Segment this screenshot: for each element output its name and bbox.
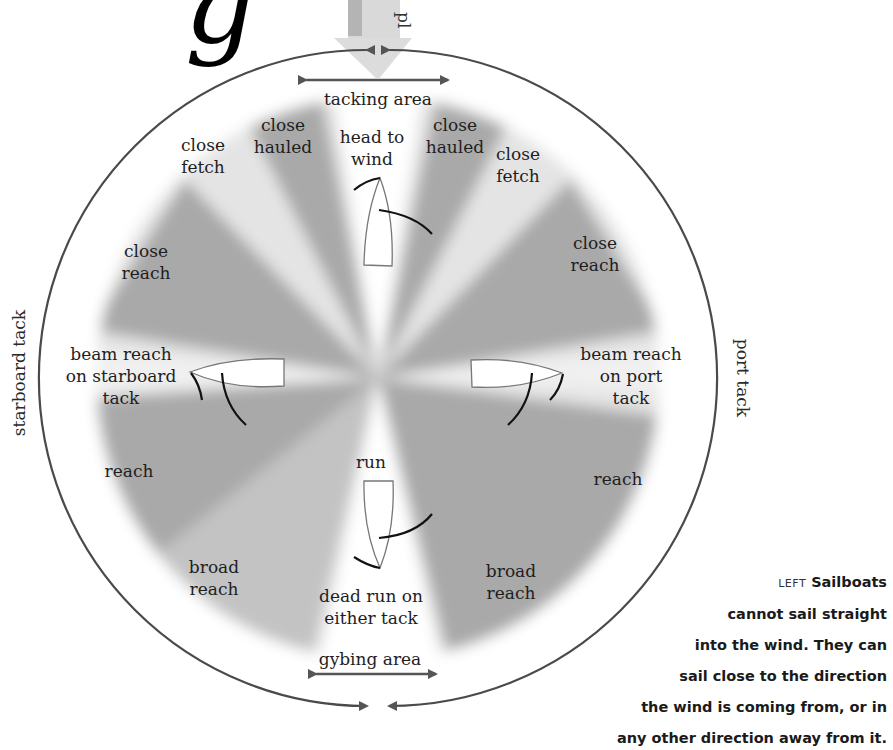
label-close-fetch-left: close fetch xyxy=(181,134,225,178)
label-dead-run: dead run on either tack xyxy=(319,585,423,629)
caption-line-1: LEFTSailboats xyxy=(597,567,887,599)
label-broad-reach-left: broad reach xyxy=(189,556,239,600)
caption-line-5: the wind is coming from, or in xyxy=(597,692,887,723)
caption-line-3: into the wind. They can xyxy=(597,630,887,661)
label-close-reach-right: close reach xyxy=(571,232,620,276)
label-beam-reach-port: beam reach on port tack xyxy=(580,343,681,409)
label-beam-reach-starboard: beam reach on starboard tack xyxy=(66,343,177,409)
label-close-hauled-left: close hauled xyxy=(254,114,312,158)
port-tack-label: port tack xyxy=(733,339,753,417)
label-broad-reach-right: broad reach xyxy=(486,560,536,604)
label-reach-left: reach xyxy=(105,460,154,482)
gybing-area-label: gybing area xyxy=(319,648,422,670)
label-head-to-wind: head to wind xyxy=(340,126,405,170)
caption-line-2: cannot sail straight xyxy=(597,599,887,630)
svg-text:pl: pl xyxy=(394,12,414,28)
caption-line-4: sail close to the direction xyxy=(597,661,887,692)
caption-line-6: any other direction away from it. xyxy=(597,723,887,750)
title-fragment: g xyxy=(185,0,255,68)
label-reach-right: reach xyxy=(594,468,643,490)
label-close-reach-left: close reach xyxy=(122,240,171,284)
wind-arrow-icon: pl xyxy=(334,0,414,80)
tacking-area-label: tacking area xyxy=(324,88,432,110)
label-close-hauled-right: close hauled xyxy=(426,114,484,158)
caption: LEFTSailboats cannot sail straight into … xyxy=(597,567,887,750)
starboard-tack-label: starboard tack xyxy=(9,310,29,436)
caption-prefix: LEFT xyxy=(778,577,806,590)
label-close-fetch-right: close fetch xyxy=(496,143,540,187)
label-run: run xyxy=(356,451,386,473)
